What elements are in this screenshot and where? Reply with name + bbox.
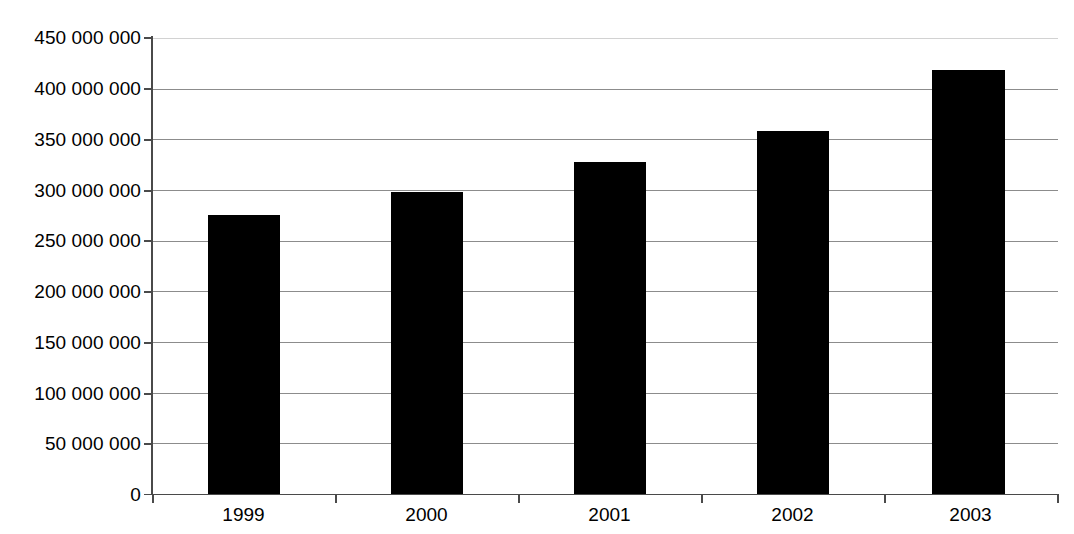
x-axis-label-2002: 2002 bbox=[701, 504, 884, 526]
x-axis-tick bbox=[335, 494, 337, 503]
bar-2003 bbox=[932, 70, 1005, 494]
y-axis-tick-label: 100 000 000 bbox=[0, 384, 141, 403]
x-axis-tick bbox=[884, 494, 886, 503]
x-axis-label-1999: 1999 bbox=[152, 504, 335, 526]
x-axis-tick bbox=[518, 494, 520, 503]
bar-chart: 450 000 000 400 000 000 350 000 000 300 … bbox=[0, 0, 1074, 534]
bar-2002 bbox=[757, 131, 829, 494]
y-axis-tick-label: 250 000 000 bbox=[0, 231, 141, 250]
bar-2000 bbox=[391, 192, 463, 494]
y-axis-tick-label: 0 bbox=[0, 485, 141, 504]
y-axis-tick-label: 300 000 000 bbox=[0, 181, 141, 200]
x-axis-tick bbox=[152, 494, 154, 503]
y-axis-tick-label: 350 000 000 bbox=[0, 130, 141, 149]
y-axis-tick-label: 450 000 000 bbox=[0, 28, 141, 47]
y-axis-tick-label: 150 000 000 bbox=[0, 333, 141, 352]
plot-area bbox=[152, 38, 1058, 494]
gridline-450m bbox=[152, 38, 1058, 39]
gridline-350m bbox=[152, 139, 1058, 140]
y-axis-labels: 450 000 000 400 000 000 350 000 000 300 … bbox=[0, 0, 141, 534]
x-axis-label-2000: 2000 bbox=[335, 504, 518, 526]
x-axis-tick bbox=[1057, 494, 1059, 503]
x-axis-line bbox=[152, 494, 1058, 496]
gridline-400m bbox=[152, 89, 1058, 90]
y-axis-tick-label: 50 000 000 bbox=[0, 434, 141, 453]
y-axis-tick-label: 400 000 000 bbox=[0, 79, 141, 98]
bar-2001 bbox=[574, 162, 646, 494]
y-axis-line bbox=[151, 36, 153, 495]
y-axis-tick-label: 200 000 000 bbox=[0, 282, 141, 301]
x-axis-tick bbox=[701, 494, 703, 503]
bar-1999 bbox=[208, 215, 280, 494]
x-axis-label-2003: 2003 bbox=[884, 504, 1057, 526]
x-axis-label-2001: 2001 bbox=[518, 504, 701, 526]
